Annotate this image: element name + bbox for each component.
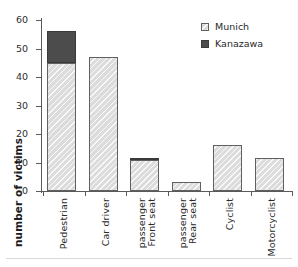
legend-item-munich: Munich bbox=[201, 20, 263, 33]
bar-front-seat-passenger bbox=[130, 20, 159, 191]
x-axis-label-cyclist: Cyclist bbox=[225, 198, 235, 264]
bar-pedestrian bbox=[47, 20, 76, 191]
legend-label-kanazawa: Kanazawa bbox=[215, 38, 263, 49]
bar-segment-munich bbox=[255, 158, 284, 191]
x-axis-label-front-seat-passenger: passengerFront seat bbox=[137, 198, 157, 264]
x-axis-label-car-driver: Car driver bbox=[101, 198, 111, 264]
x-axis-tick bbox=[292, 191, 293, 196]
y-axis-tick-label: 20 bbox=[16, 128, 28, 139]
bar-rear-seat-passenger bbox=[172, 20, 201, 191]
x-axis-tick bbox=[43, 191, 44, 196]
bar-car-driver bbox=[89, 20, 118, 191]
x-axis-tick bbox=[126, 191, 127, 196]
x-axis-tick bbox=[85, 191, 86, 196]
x-axis-label-line: Pedestrian bbox=[59, 198, 69, 249]
x-axis-tick bbox=[209, 191, 210, 196]
y-axis-tick-label: 0 bbox=[22, 185, 28, 196]
x-axis-label-line: Car driver bbox=[101, 198, 111, 246]
x-axis-label-line: Rear seat bbox=[188, 198, 198, 244]
y-axis-tick-label: 50 bbox=[16, 43, 28, 54]
bar-segment-munich bbox=[47, 63, 76, 191]
x-axis-label-motorcyclist: Motorcyclist bbox=[267, 198, 277, 264]
y-axis-tick-label: 60 bbox=[16, 14, 28, 25]
y-axis-tick-mark bbox=[36, 191, 41, 192]
legend-item-kanazawa: Kanazawa bbox=[201, 37, 263, 50]
chart-legend: Munich Kanazawa bbox=[201, 20, 263, 54]
x-axis-tick bbox=[168, 191, 169, 196]
legend-label-munich: Munich bbox=[215, 21, 249, 32]
bar-segment-kanazawa bbox=[47, 31, 76, 62]
bar-segment-munich bbox=[213, 145, 242, 191]
bar-segment-munich bbox=[130, 160, 159, 191]
x-axis-label-line: Front seat bbox=[147, 198, 157, 246]
bar-segment-munich bbox=[89, 57, 118, 191]
bar-chart: number of victims 0102030405060 Pedestri… bbox=[0, 0, 298, 267]
legend-swatch-kanazawa-icon bbox=[201, 40, 209, 48]
x-axis-label-line: Motorcyclist bbox=[267, 198, 277, 256]
bar-segment-kanazawa bbox=[130, 158, 159, 160]
x-axis-label-line: Cyclist bbox=[225, 198, 235, 230]
y-axis-tick-label: 30 bbox=[16, 100, 28, 111]
y-axis-tick-label: 40 bbox=[16, 71, 28, 82]
x-axis-label-pedestrian: Pedestrian bbox=[59, 198, 69, 264]
footer-divider bbox=[6, 258, 292, 259]
legend-swatch-munich-icon bbox=[201, 23, 209, 31]
x-axis-tick bbox=[251, 191, 252, 196]
x-axis-label-rear-seat-passenger: passengerRear seat bbox=[178, 198, 198, 264]
y-axis-title-host: number of victims bbox=[14, 185, 15, 186]
bar-segment-munich bbox=[172, 182, 201, 191]
y-axis-tick-label: 10 bbox=[16, 157, 28, 168]
